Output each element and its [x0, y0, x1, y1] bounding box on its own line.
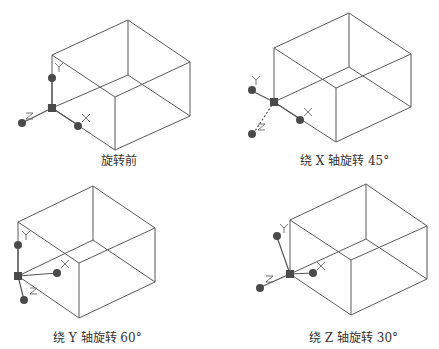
- y-axis-grip[interactable]: [48, 74, 56, 82]
- ucs-gizmo[interactable]: [14, 231, 69, 304]
- ucs-gizmo[interactable]: [248, 76, 312, 138]
- wireframe-box: [274, 13, 411, 142]
- panel-rotate-y: [14, 186, 155, 318]
- panel-rotate-z: [256, 184, 427, 315]
- z-axis-grip[interactable]: [256, 284, 264, 292]
- y-axis-label-icon: [55, 63, 63, 72]
- y-axis-label-icon: [252, 76, 260, 85]
- x-axis-grip[interactable]: [74, 122, 82, 130]
- panel-before: [18, 20, 190, 150]
- caption-rotate-z: 绕 Z 轴旋转 30°: [309, 328, 398, 345]
- x-axis-grip[interactable]: [309, 269, 317, 277]
- wireframe-box: [290, 184, 427, 315]
- y-axis-grip[interactable]: [273, 232, 281, 240]
- origin-grip[interactable]: [270, 98, 278, 106]
- wireframe-box: [52, 20, 190, 150]
- caption-rotate-x: 绕 X 轴旋转 45°: [300, 151, 389, 168]
- x-axis-label-icon: [82, 114, 90, 122]
- y-axis-label-icon: [280, 224, 288, 233]
- caption-before: 旋转前: [101, 151, 137, 168]
- y-axis-grip[interactable]: [14, 241, 22, 249]
- caption-rotate-y: 绕 Y 轴旋转 60°: [53, 328, 142, 345]
- x-axis-label-icon: [61, 260, 69, 268]
- panel-rotate-x: [248, 13, 411, 142]
- y-axis-label-icon: [22, 231, 30, 240]
- origin-grip[interactable]: [14, 272, 22, 280]
- x-axis-grip[interactable]: [53, 269, 61, 277]
- z-axis-label-icon: [266, 276, 273, 282]
- wireframe-box: [18, 186, 155, 318]
- rotation-figure: [0, 0, 439, 349]
- z-axis-grip[interactable]: [20, 296, 28, 304]
- z-axis-label-icon: [30, 288, 37, 294]
- origin-grip[interactable]: [286, 270, 294, 278]
- z-axis-grip[interactable]: [18, 119, 26, 127]
- x-axis-grip[interactable]: [296, 116, 304, 124]
- origin-grip[interactable]: [48, 104, 56, 112]
- z-axis-label-icon: [258, 124, 265, 130]
- x-axis-label-icon: [317, 262, 325, 270]
- z-axis-grip[interactable]: [248, 130, 256, 138]
- y-axis-grip[interactable]: [248, 86, 256, 94]
- x-axis-label-icon: [304, 108, 312, 116]
